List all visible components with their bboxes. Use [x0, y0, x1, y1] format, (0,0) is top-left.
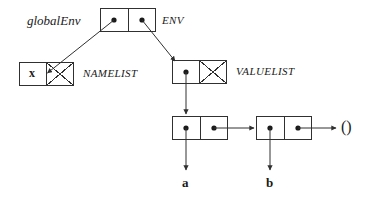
label-valuelist: VALUELIST [236, 66, 294, 77]
edge-env-cdr-to-valuelist [142, 20, 175, 61]
env-cons-cell-box [101, 9, 156, 32]
diagram-graphics [0, 0, 372, 202]
diagram-canvas: globalEnv ENV NAMELIST VALUELIST x a b (… [0, 0, 372, 202]
label-value-a: a [182, 176, 189, 189]
namelist-cons-cell-box [20, 63, 74, 86]
valuelist-cons-cell-box [173, 61, 227, 84]
label-value-b: b [266, 176, 273, 189]
label-nil: () [341, 119, 352, 135]
label-global-env: globalEnv [27, 14, 80, 27]
label-namelist: NAMELIST [83, 68, 138, 79]
label-env: ENV [162, 15, 184, 26]
label-name-x: x [29, 67, 35, 79]
